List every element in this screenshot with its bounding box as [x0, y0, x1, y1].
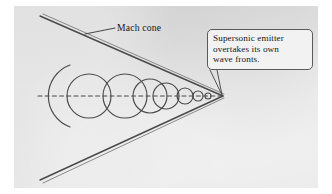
callout-line-1: Supersonic emitter [213, 33, 308, 44]
figure-container: Mach cone Supersonic emitter overtakes i… [0, 0, 332, 194]
lower-mach-line-shadow [43, 98, 224, 183]
callout-line-2: overtakes its own [213, 44, 308, 55]
mach-cone-label: Mach cone [117, 22, 161, 33]
lower-mach-line [40, 96, 223, 180]
callout-line-3: wave fronts. [213, 54, 308, 65]
callout-annotation: Supersonic emitter overtakes its own wav… [207, 29, 313, 70]
mach-cone-leader-line [85, 28, 115, 34]
